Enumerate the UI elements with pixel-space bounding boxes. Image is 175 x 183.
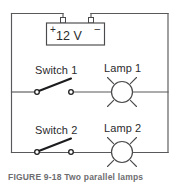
branch-2: Switch 2 Lamp 2 [35,122,142,167]
lamp-1-ray-lower-left [108,100,114,106]
switch-1-label: Switch 1 [35,64,77,76]
switch-2-lever[interactable] [38,139,72,152]
lamp-2-ray-upper-left [108,138,114,144]
switch-1-contact-terminal[interactable] [69,90,74,95]
battery-positive-post [61,18,66,24]
circuit-diagram: + – 12 V Switch 1 Lamp [0,0,175,183]
figure-caption: FIGURE 9-18 Two parallel lamps [8,172,175,183]
switch-1-pivot-terminal[interactable] [35,90,40,95]
lamp-1-ray-upper-left [108,78,114,84]
figure-container: + – 12 V Switch 1 Lamp [0,0,175,183]
switch-2-label: Switch 2 [35,124,77,136]
lamp-2-symbol [108,138,137,167]
switch-2-contact-terminal[interactable] [69,150,74,155]
lamp-1-ray-lower-right [130,100,136,106]
lamp-2-ray-upper-right [130,138,136,144]
battery-negative-post [89,18,94,24]
lamp-2-bulb [112,142,133,163]
lamp-2-ray-lower-left [108,160,114,166]
battery-negative-label: – [95,23,101,34]
lamp-2-label: Lamp 2 [104,122,141,134]
battery-symbol: + – 12 V [47,14,105,46]
branch-1: Switch 1 Lamp 1 [12,62,169,107]
lamp-1-label: Lamp 1 [104,62,141,74]
battery-voltage-label: 12 V [56,29,82,43]
lamp-2-ray-lower-right [130,160,136,166]
switch-1-lever[interactable] [38,79,72,92]
switch-1-symbol[interactable] [35,79,74,95]
lamp-1-symbol [108,78,137,107]
switch-2-pivot-terminal[interactable] [35,150,40,155]
lamp-1-bulb [112,82,133,103]
lamp-1-ray-upper-right [130,78,136,84]
